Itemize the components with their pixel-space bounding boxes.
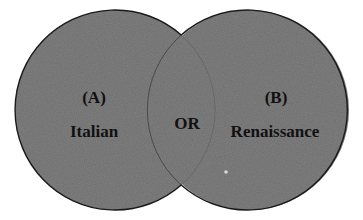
- set-b-tag: (B): [265, 88, 288, 107]
- overlap-label: OR: [174, 114, 200, 133]
- set-b-label: Renaissance: [231, 122, 320, 141]
- venn-diagram: (A) Italian OR (B) Renaissance: [0, 0, 363, 220]
- set-a-tag: (A): [82, 88, 106, 107]
- set-a-label: Italian: [70, 122, 119, 141]
- scan-speck: [224, 170, 228, 174]
